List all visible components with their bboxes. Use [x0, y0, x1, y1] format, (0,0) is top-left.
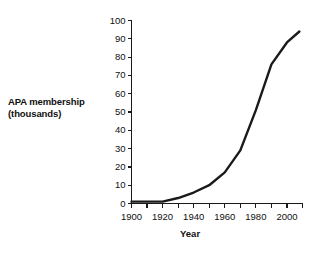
y-tick-label: 80: [100, 51, 126, 62]
chart-figure: APA membership (thousands) Year 01020304…: [0, 0, 317, 256]
series-line-apa-membership: [132, 31, 300, 201]
x-tick-label: 2000: [267, 211, 307, 222]
x-axis-title: Year: [180, 228, 200, 239]
y-tick-label: 90: [100, 33, 126, 44]
y-tick-label: 40: [100, 124, 126, 135]
y-tick-label: 20: [100, 161, 126, 172]
y-tick-label: 50: [100, 106, 126, 117]
data-series-layer: [132, 31, 300, 201]
y-tick-label: 10: [100, 179, 126, 190]
y-tick-label: 0: [100, 198, 126, 209]
y-tick-label: 70: [100, 69, 126, 80]
y-tick-label: 100: [100, 15, 126, 26]
y-tick-label: 60: [100, 88, 126, 99]
axis-lines: [132, 21, 303, 204]
y-tick-label: 30: [100, 143, 126, 154]
